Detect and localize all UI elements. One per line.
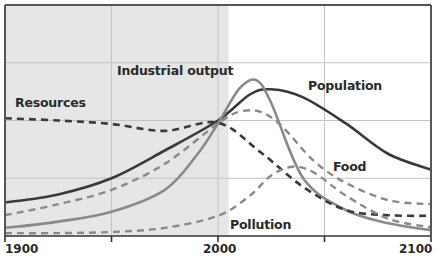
label-food: Food <box>333 159 366 174</box>
chart-canvas <box>0 0 436 260</box>
label-pollution: Pollution <box>230 217 291 232</box>
label-industrial-output: Industrial output <box>117 63 233 78</box>
x-tick-label-2100: 2100 <box>399 242 432 256</box>
label-resources: Resources <box>15 95 86 110</box>
label-population: Population <box>308 78 382 93</box>
x-tick-label-2000: 2000 <box>203 242 236 256</box>
x-tick-label-1900: 1900 <box>5 242 38 256</box>
